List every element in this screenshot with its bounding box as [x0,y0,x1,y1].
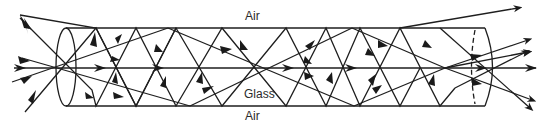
label-air-bottom: Air [245,109,260,123]
fiber-illustration [0,0,542,126]
entry-face-ellipse [56,28,76,106]
exit-face-back-dashed [472,30,476,104]
optical-fiber-diagram: Air Glass Air [0,0,542,126]
label-air-top: Air [245,9,260,23]
ray-zigzag-main [20,8,530,112]
label-glass: Glass [244,87,275,101]
exit-face-front [485,28,493,106]
